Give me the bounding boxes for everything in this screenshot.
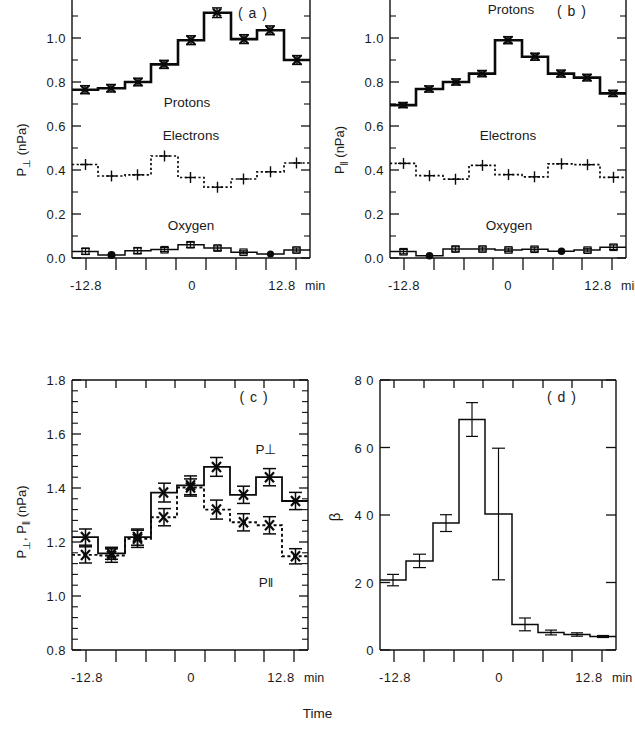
panel-b: 0.0 0.2 0.4 0.6 0.8 1.0 -12.8 0 12 [318, 0, 635, 320]
panel-b-xtick-left: -12.8 [388, 278, 420, 293]
panel-b-protons-label: Protons [488, 2, 535, 17]
panel-d-beta-trace [380, 403, 616, 638]
panel-c-ytick-1: 1.0 [46, 589, 66, 604]
panel-b-electrons-label: Electrons [480, 128, 537, 143]
panel-b-xtick-right: 12.8 [584, 278, 611, 293]
panel-c-y-ticklabels: 0.8 1.0 1.2 1.4 1.6 1.8 [46, 373, 66, 658]
panel-b-x-ticklabels: -12.8 0 12.8 min [388, 278, 635, 293]
panel-a-oxygen-markers [81, 242, 301, 259]
panel-a-y-ticklabels: 0.0 0.2 0.4 0.6 0.8 1.0 [46, 31, 66, 266]
panel-a-electrons-label: Electrons [163, 128, 220, 143]
panel-a-ylabel-main: P [14, 168, 29, 177]
panel-b-electrons-trace: Electrons [390, 128, 626, 185]
panel-d-ylabel: β [326, 512, 343, 521]
panel-c-y-ticks [72, 380, 308, 650]
panel-b-xtick-center: 0 [504, 278, 512, 293]
panel-a-ytick-3: 0.6 [46, 119, 66, 134]
panel-d-ytick-0: 0 [366, 643, 374, 658]
panel-c-ylabel-main: P [14, 550, 29, 559]
panel-a-ytick-4: 0.8 [46, 75, 66, 90]
panel-b-electrons-markers [398, 158, 619, 185]
panel-c-ytick-4: 1.6 [46, 427, 66, 442]
panel-c-ytick-2: 1.2 [46, 535, 66, 550]
figure-root: 0.0 0.2 0.4 0.6 0.8 1.0 -12.8 [0, 0, 635, 737]
panel-a-ylabel: P⊥ (nPa) [14, 123, 32, 176]
panel-b-ylabel-main: P [332, 165, 347, 174]
panel-a-x-ticks [86, 258, 296, 270]
panel-a-electrons-trace: Electrons [72, 128, 310, 193]
panel-b-oxygen-markers [399, 244, 618, 260]
svg-text:P⊥, P‖ (nPa): P⊥, P‖ (nPa) [14, 485, 32, 558]
panel-d-beta-errorbars [387, 403, 609, 638]
panel-a-ytick-5: 1.0 [46, 31, 66, 46]
panel-b-ytick-5: 1.0 [364, 31, 384, 46]
panel-c-x-ticklabels: -12.8 0 12.8 min [71, 670, 324, 685]
panel-c-para-trace: P‖ [72, 479, 308, 590]
panel-b-y-ticklabels: 0.0 0.2 0.4 0.6 0.8 1.0 [364, 31, 384, 266]
panel-c-perp-label: P⊥ [255, 442, 276, 457]
figure-xlabel: Time [0, 706, 635, 721]
panel-c-ytick-5: 1.8 [46, 373, 66, 388]
panel-a-protons-label: Protons [164, 95, 211, 110]
panel-a-ylabel-unit: (nPa) [14, 123, 29, 158]
panel-a-protons-errorbars [80, 8, 302, 94]
panel-d-label: ( d ) [547, 389, 577, 405]
panel-c-xtick-right: 12.8 [267, 670, 294, 685]
panel-b-ytick-3: 0.6 [364, 119, 384, 134]
panel-c-label: ( c ) [239, 389, 268, 405]
panel-d-ytick-2: 4 0 [354, 508, 374, 523]
panel-b-ylabel: P‖ (nPa) [332, 126, 350, 174]
panel-b-ytick-0: 0.0 [364, 251, 384, 266]
panel-b-x-ticks [404, 258, 612, 270]
panel-a-electrons-markers [80, 151, 302, 193]
panel-b-label: ( b ) [557, 3, 587, 19]
panel-d-ytick-3: 6 0 [354, 441, 374, 456]
panel-d-ylabel-main: β [326, 512, 343, 521]
panel-b-x-unit: min [621, 279, 635, 293]
panel-c-axes [72, 380, 308, 650]
panel-c-ylabel-unit: (nPa) [14, 485, 29, 520]
panel-c-perp-trace: P⊥ [72, 442, 308, 559]
panel-d: 0 2 0 4 0 6 0 8 0 [318, 372, 635, 702]
panel-d-x-unit: min [612, 671, 632, 685]
panel-d-ytick-4: 8 0 [354, 373, 374, 388]
panel-d-xtick-center: 0 [495, 670, 503, 685]
panel-b-protons-errorbars [398, 37, 618, 108]
panel-a-ytick-0: 0.0 [46, 251, 66, 266]
panel-c-para-label: P‖ [259, 575, 274, 590]
panel-a-x-ticklabels: -12.8 0 12.8 min [70, 278, 325, 293]
panel-a-xtick-center: 0 [188, 278, 196, 293]
panel-a-xtick-left: -12.8 [70, 278, 102, 293]
panel-c-ylabel-mid: , P [14, 525, 29, 541]
panel-c-perp-errorbars [79, 458, 302, 560]
panel-c-ytick-3: 1.4 [46, 481, 66, 496]
panel-a: 0.0 0.2 0.4 0.6 0.8 1.0 -12.8 [0, 0, 320, 320]
panel-a-xtick-right: 12.8 [268, 278, 295, 293]
panel-b-ylabel-unit: (nPa) [332, 126, 347, 161]
panel-b-oxygen-trace: Oxygen [390, 218, 626, 260]
panel-a-label: ( a ) [238, 5, 268, 21]
panel-c-xtick-left: -12.8 [71, 670, 103, 685]
panel-a-oxygen-label: Oxygen [168, 218, 215, 233]
panel-b-ytick-1: 0.2 [364, 207, 384, 222]
panel-c-ytick-0: 0.8 [46, 643, 66, 658]
panel-a-protons-trace: Protons [72, 8, 310, 110]
panel-d-ytick-1: 2 0 [354, 576, 374, 591]
panel-d-xtick-right: 12.8 [575, 670, 602, 685]
panel-c-ylabel-sub1: ⊥ [21, 541, 32, 550]
panel-a-ytick-2: 0.4 [46, 163, 66, 178]
svg-text:P‖ (nPa): P‖ (nPa) [332, 126, 350, 174]
panel-a-ytick-1: 0.2 [46, 207, 66, 222]
panel-d-x-ticklabels: -12.8 0 12.8 min [379, 670, 632, 685]
panel-c-xtick-center: 0 [187, 670, 195, 685]
panel-c-ylabel: P⊥, P‖ (nPa) [14, 485, 32, 558]
panel-b-ytick-2: 0.4 [364, 163, 384, 178]
panel-d-xtick-left: -12.8 [379, 670, 411, 685]
svg-text:P⊥ (nPa): P⊥ (nPa) [14, 123, 32, 176]
panel-a-oxygen-trace: Oxygen [72, 218, 310, 259]
panel-c-x-ticks [86, 380, 294, 662]
panel-b-oxygen-label: Oxygen [486, 218, 533, 233]
panel-b-ytick-4: 0.8 [364, 75, 384, 90]
panel-a-ylabel-sub: ⊥ [21, 159, 32, 168]
panel-d-y-ticklabels: 0 2 0 4 0 6 0 8 0 [354, 373, 374, 658]
